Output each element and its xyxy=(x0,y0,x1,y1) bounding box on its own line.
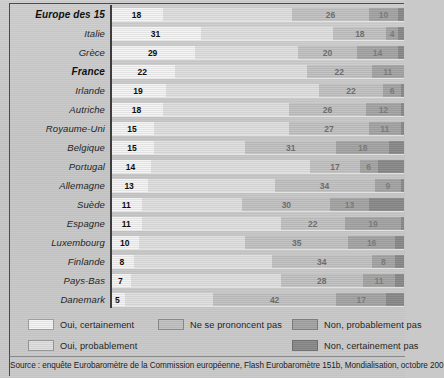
bar-segment-3: 16 xyxy=(348,236,395,249)
segment-value: 27 xyxy=(324,124,333,134)
segment-value: 16 xyxy=(367,238,376,248)
stacked-bar: 31451842 xyxy=(110,27,404,40)
stacked-bar: 1134301312 xyxy=(110,198,404,211)
bar-segment-3: 6 xyxy=(383,84,401,97)
bar-segment-1: 51 xyxy=(131,274,281,287)
bar-segment-0: 15 xyxy=(110,141,154,154)
bar-segment-0: 5 xyxy=(110,293,125,306)
bar-segment-3: 11 xyxy=(372,65,404,78)
bar-segment-2: 34 xyxy=(272,255,372,268)
bar-segment-1: 47 xyxy=(134,255,272,268)
bar-segment-4: 2 xyxy=(398,46,404,59)
stacked-bar: 19522261 xyxy=(110,84,404,97)
bar-segment-1: 34 xyxy=(142,198,242,211)
bar-segment-0: 15 xyxy=(110,122,154,135)
bar-segment-0: 8 xyxy=(110,255,134,268)
bar-segment-0: 18 xyxy=(110,8,163,21)
segment-value: 8 xyxy=(381,257,386,267)
segment-value: 11 xyxy=(383,67,392,77)
segment-value: 4 xyxy=(390,29,395,39)
legend-swatch-icon-2 xyxy=(158,319,184,330)
bar-segment-4: 3 xyxy=(395,255,404,268)
category-label: Allemagne xyxy=(10,180,110,191)
bar-segment-0: 18 xyxy=(110,103,163,116)
bar-segment-1: 45 xyxy=(201,27,333,40)
stacked-bar: 8473483 xyxy=(110,255,404,268)
bar-segment-3: 12 xyxy=(366,103,401,116)
bar-segment-2: 34 xyxy=(275,179,375,192)
chart-row: Allemagne13433491 xyxy=(10,176,404,195)
bar-segment-1: 43 xyxy=(148,179,274,192)
stacked-bar: 153131185 xyxy=(110,141,404,154)
bar-segment-4: 1 xyxy=(401,122,404,135)
segment-value: 14 xyxy=(126,162,135,172)
segment-value: 35 xyxy=(292,238,301,248)
bar-segment-4: 6 xyxy=(386,293,404,306)
segment-value: 28 xyxy=(317,276,326,286)
bar-segment-3: 11 xyxy=(369,122,401,135)
legend-label-3: Non, probablement pas xyxy=(324,320,422,330)
category-axis-line xyxy=(110,5,112,308)
bar-segment-0: 14 xyxy=(110,160,151,173)
bar-segment-0: 22 xyxy=(110,65,175,78)
segment-value: 6 xyxy=(366,162,371,172)
category-label: Autriche xyxy=(10,104,110,115)
segment-value: 34 xyxy=(320,181,329,191)
segment-value: 13 xyxy=(124,181,133,191)
chart-row: Danemark53042176 xyxy=(10,290,404,309)
segment-value: 26 xyxy=(326,10,335,20)
category-label: Italie xyxy=(10,28,110,39)
segment-value: 30 xyxy=(282,200,291,210)
segment-value: 22 xyxy=(346,86,355,96)
category-label: Suède xyxy=(10,199,110,210)
bar-segment-2: 26 xyxy=(289,103,365,116)
legend-label-4: Non, certainement pas xyxy=(324,341,419,351)
bar-segment-3: 11 xyxy=(363,274,395,287)
stacked-bar: 184426102 xyxy=(110,8,404,21)
category-label: Finlande xyxy=(10,256,110,267)
bar-segment-2: 18 xyxy=(333,27,386,40)
stacked-bar: 184326121 xyxy=(110,103,404,116)
category-label: Royaume-Uni xyxy=(10,123,110,134)
segment-value: 29 xyxy=(148,48,157,58)
segment-value: 18 xyxy=(355,29,364,39)
bar-segment-2: 31 xyxy=(245,141,336,154)
stacked-bar: 154627111 xyxy=(110,122,404,135)
segment-value: 11 xyxy=(374,276,383,286)
bar-segment-2: 27 xyxy=(289,122,368,135)
segment-value: 12 xyxy=(379,105,388,115)
bar-segment-4: 1 xyxy=(401,84,404,97)
bar-segment-4: 1 xyxy=(401,179,404,192)
segment-value: 17 xyxy=(357,295,366,305)
legend-swatch-icon-3 xyxy=(292,319,318,330)
chart-row: Italie31451842 xyxy=(10,24,404,43)
legend-swatch-icon-4 xyxy=(292,340,318,351)
stacked-bar: 114722191 xyxy=(110,217,404,230)
legend-swatch-icon-0 xyxy=(28,319,54,330)
stacked-bar: 53042176 xyxy=(110,293,404,306)
segment-value: 10 xyxy=(379,10,388,20)
bar-segment-4: 9 xyxy=(378,160,404,173)
category-label: Espagne xyxy=(10,218,110,229)
stacked-bar: 22452211 xyxy=(110,65,404,78)
stacked-bar-chart: Europe des 15184426102Italie31451842Grèc… xyxy=(10,5,404,308)
stacked-bar: 293520142 xyxy=(110,46,404,59)
bar-segment-3: 8 xyxy=(372,255,396,268)
segment-value: 18 xyxy=(358,143,367,153)
stacked-bar: 103635163 xyxy=(110,236,404,249)
bar-segment-2: 42 xyxy=(213,293,336,306)
bar-segment-1: 45 xyxy=(175,65,307,78)
chart-row: Espagne114722191 xyxy=(10,214,404,233)
segment-value: 7 xyxy=(118,276,123,286)
bar-segment-1: 52 xyxy=(166,84,319,97)
segment-value: 15 xyxy=(127,124,136,134)
segment-value: 26 xyxy=(323,105,332,115)
chart-row: Irlande19522261 xyxy=(10,81,404,100)
bar-segment-0: 10 xyxy=(110,236,139,249)
segment-value: 19 xyxy=(133,86,142,96)
bar-segment-1: 35 xyxy=(195,46,298,59)
segment-value: 15 xyxy=(127,143,136,153)
bar-segment-4: 12 xyxy=(369,198,404,211)
bar-segment-0: 11 xyxy=(110,217,142,230)
bar-segment-2: 35 xyxy=(245,236,348,249)
